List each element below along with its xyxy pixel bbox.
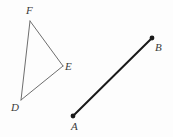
segment-AB-line [73, 38, 152, 116]
figure-canvas [0, 0, 173, 137]
endpoint-label-B: B [155, 42, 162, 53]
endpoint-dot-A [71, 114, 76, 119]
triangle-DEF [21, 21, 63, 100]
triangle-edge-DF [21, 21, 30, 100]
endpoint-dot-B [150, 36, 155, 41]
endpoint-label-A: A [71, 121, 78, 132]
geometry-figure: F E D B A [0, 0, 173, 137]
triangle-edge-FE [30, 21, 63, 66]
vertex-label-F: F [26, 5, 33, 16]
segment-AB [71, 36, 155, 119]
vertex-label-D: D [11, 102, 19, 113]
triangle-edge-ED [21, 66, 63, 100]
vertex-label-E: E [65, 61, 72, 72]
